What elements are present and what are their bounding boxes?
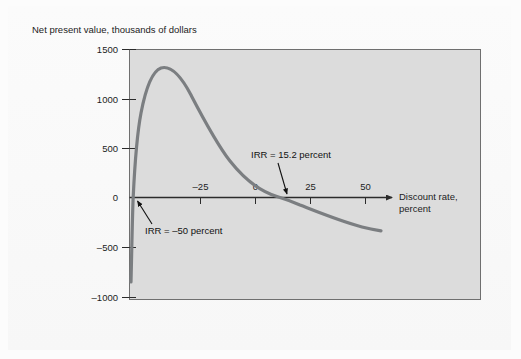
annotation-lower-label: IRR = –50 percent — [145, 225, 223, 236]
x-tick-label: 25 — [305, 181, 316, 192]
y-axis-tick-labels: 1500 1000 500 0 –500 –1000 — [92, 44, 118, 303]
chart-title: Net present value, thousands of dollars — [32, 24, 197, 35]
x-axis-label-line1: Discount rate, — [399, 191, 458, 202]
y-tick-label: 500 — [102, 143, 118, 154]
y-tick-label: 1000 — [97, 94, 118, 105]
annotation-upper-label: IRR = 15.2 percent — [251, 149, 331, 160]
x-tick-label: 50 — [360, 181, 371, 192]
npv-chart: Net present value, thousands of dollars … — [0, 0, 521, 359]
y-tick-label: 1500 — [97, 44, 118, 55]
y-tick-label: –500 — [97, 242, 118, 253]
plot-area — [130, 50, 481, 300]
x-axis-label-line2: percent — [399, 203, 431, 214]
y-tick-label: 0 — [113, 192, 118, 203]
figure-container: Net present value, thousands of dollars … — [0, 0, 521, 359]
y-tick-label: –1000 — [92, 292, 118, 303]
x-tick-label: –25 — [193, 181, 209, 192]
